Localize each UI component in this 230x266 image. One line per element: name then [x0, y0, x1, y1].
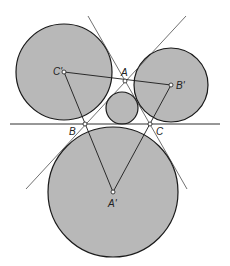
point-a: [123, 79, 127, 83]
diagram-canvas: A B C A' B' C': [0, 0, 230, 266]
label-a-prime: A': [107, 198, 118, 209]
label-a: A: [120, 67, 128, 78]
point-c-prime: [62, 70, 66, 74]
point-b: [83, 122, 87, 126]
label-b: B: [69, 126, 76, 137]
point-a-prime: [111, 190, 115, 194]
label-c-prime: C': [53, 66, 63, 77]
point-b-prime: [169, 83, 173, 87]
point-c: [148, 122, 152, 126]
label-b-prime: B': [176, 80, 186, 91]
label-c: C: [156, 126, 164, 137]
